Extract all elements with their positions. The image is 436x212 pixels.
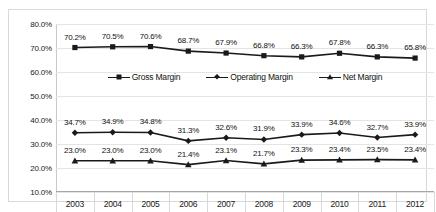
x-axis-tick-label: 2011 — [369, 199, 386, 209]
x-axis-tick-label: 2007 — [217, 199, 235, 209]
legend-square-marker-icon — [108, 73, 130, 82]
data-point-marker — [72, 45, 77, 50]
y-axis-tick-label: 50.0% — [30, 92, 52, 101]
data-label: 21.4% — [177, 150, 199, 159]
y-axis-tick-label: 70.0% — [30, 44, 52, 53]
x-axis-tick-separator — [283, 192, 284, 212]
y-axis-tick-label: 40.0% — [30, 116, 52, 125]
x-axis-tick-label: 2012 — [406, 199, 424, 209]
data-point-marker — [147, 129, 153, 135]
triangle-icon — [327, 74, 333, 79]
y-axis-tick-label: 30.0% — [30, 140, 52, 149]
data-label: 66.3% — [366, 42, 388, 51]
data-point-marker — [110, 44, 115, 49]
data-point-marker — [261, 136, 267, 142]
x-axis-tick-separator — [132, 192, 133, 212]
data-label: 23.4% — [404, 145, 426, 154]
data-label: 32.6% — [215, 123, 237, 132]
data-point-marker — [223, 135, 229, 141]
data-label: 34.6% — [329, 118, 351, 127]
x-axis-tick-label: 2006 — [179, 199, 197, 209]
data-point-marker — [148, 44, 153, 49]
x-axis-tick-separator — [321, 192, 322, 212]
plot-area: 10.0%20.0%30.0%40.0%50.0%60.0%70.0%80.0%… — [56, 24, 434, 192]
data-point-marker — [185, 138, 191, 144]
series-line — [75, 47, 415, 59]
data-point-marker — [72, 130, 78, 136]
x-axis-tick-label: 2008 — [255, 199, 273, 209]
data-label: 23.0% — [102, 146, 124, 155]
data-label: 23.0% — [64, 146, 86, 155]
y-axis-tick-label: 60.0% — [30, 68, 52, 77]
data-point-marker — [375, 54, 380, 59]
data-point-marker — [337, 51, 342, 56]
legend-label: Net Margin — [343, 72, 383, 82]
data-label: 23.3% — [291, 145, 313, 154]
data-label: 23.1% — [215, 146, 237, 155]
legend-item-net-margin[interactable]: Net Margin — [319, 72, 383, 82]
data-point-marker — [336, 130, 342, 136]
data-label: 21.7% — [253, 149, 275, 158]
y-axis-tick-label: 10.0% — [30, 188, 52, 197]
chart-frame: 10.0%20.0%30.0%40.0%50.0%60.0%70.0%80.0%… — [8, 9, 427, 202]
x-axis-tick-label: 2010 — [330, 199, 348, 209]
x-axis-tick-label: 2009 — [293, 199, 311, 209]
data-label: 34.8% — [140, 117, 162, 126]
data-label: 65.8% — [404, 43, 426, 52]
data-label: 70.5% — [102, 32, 124, 41]
diamond-icon — [214, 73, 220, 79]
data-point-marker — [224, 50, 229, 55]
series-net-margin — [72, 156, 419, 167]
data-label: 23.0% — [140, 146, 162, 155]
data-label: 23.4% — [329, 145, 351, 154]
series-line — [75, 132, 415, 141]
x-axis-tick-label: 2004 — [104, 199, 122, 209]
x-axis-tick-separator — [207, 192, 208, 212]
data-label: 33.9% — [291, 120, 313, 129]
data-label: 23.5% — [366, 145, 388, 154]
data-label: 68.7% — [177, 36, 199, 45]
square-icon — [116, 74, 121, 79]
legend-item-gross-margin[interactable]: Gross Margin — [108, 72, 181, 82]
data-label: 31.3% — [177, 126, 199, 135]
x-axis-tick-label: 2003 — [66, 199, 84, 209]
data-label: 66.3% — [291, 42, 313, 51]
x-axis-tick-separator — [94, 192, 95, 212]
data-label: 67.9% — [215, 38, 237, 47]
data-point-marker — [186, 49, 191, 54]
margin-trend-chart: 10.0%20.0%30.0%40.0%50.0%60.0%70.0%80.0%… — [0, 0, 436, 212]
series-line — [75, 160, 415, 165]
legend-label: Gross Margin — [132, 72, 181, 82]
data-label: 33.9% — [404, 120, 426, 129]
x-axis-tick-separator — [245, 192, 246, 212]
data-label: 66.8% — [253, 41, 275, 50]
data-point-marker — [110, 129, 116, 135]
data-label: 34.9% — [102, 117, 124, 126]
data-point-marker — [374, 134, 380, 140]
data-label: 32.7% — [366, 123, 388, 132]
legend-triangle-marker-icon — [319, 73, 341, 82]
chart-legend: Gross MarginOperating MarginNet Margin — [56, 72, 434, 82]
x-axis-tick-separator — [434, 192, 435, 212]
data-label: 34.7% — [64, 118, 86, 127]
data-label: 31.9% — [253, 124, 275, 133]
data-label: 70.6% — [140, 32, 162, 41]
data-point-marker — [299, 54, 304, 59]
data-point-marker — [413, 55, 418, 60]
x-axis-tick-separator — [396, 192, 397, 212]
data-point-marker — [299, 131, 305, 137]
x-axis-tick-separator — [358, 192, 359, 212]
legend-item-operating-margin[interactable]: Operating Margin — [206, 72, 292, 82]
data-point-marker — [412, 131, 418, 137]
x-axis-tick-label: 2005 — [141, 199, 159, 209]
data-label: 67.8% — [329, 38, 351, 47]
data-label: 70.2% — [64, 33, 86, 42]
data-point-marker — [261, 53, 266, 58]
y-axis-tick-label: 80.0% — [30, 20, 52, 29]
x-axis-tick-separator — [169, 192, 170, 212]
legend-diamond-marker-icon — [206, 73, 228, 82]
y-axis-tick-label: 20.0% — [30, 164, 52, 173]
legend-label: Operating Margin — [230, 72, 292, 82]
x-axis-tick-separator — [56, 192, 57, 212]
